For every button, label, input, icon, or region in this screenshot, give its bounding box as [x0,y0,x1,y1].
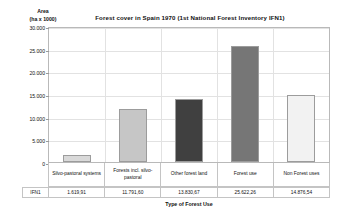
y-axis-tick-label: 5.000 [32,138,45,144]
y-axis-tick-label: 25.000 [29,48,45,54]
category-label: Forest use [218,163,274,186]
plot-area: 05.00010.00015.00020.00025.00030.000 [48,27,330,163]
category-label-row: Silvo-pastoral systemsForests incl. silv… [48,163,330,187]
y-axis-tick-label: 30.000 [29,25,45,31]
category-label: Forests incl. silvo-pastoral [105,163,161,186]
bar[interactable] [119,109,146,162]
data-value-cell: 25.622,26 [218,188,274,197]
y-axis-tick-label: 20.000 [29,70,45,76]
y-axis-tick-label: 15.000 [29,93,45,99]
bar-slot [105,28,161,162]
y-axis-tick-label: 0 [42,161,45,167]
category-label: Non Forest uses [274,163,329,186]
bar-chart-figure: Area (ha x 1000) Forest cover in Spain 1… [0,0,341,218]
chart-title: Forest cover in Spain 1970 (1st National… [60,14,320,21]
bars-group [49,28,329,162]
bar[interactable] [175,99,202,162]
data-table: IFN1 1.619,9111.791,6013.830,6725.622,26… [22,187,330,198]
bar-slot [161,28,217,162]
bar-slot [217,28,273,162]
category-label: Silvo-pastoral systems [49,163,105,186]
data-value-cell: 14.876,54 [274,188,329,197]
data-value-cell: 1.619,91 [49,188,105,197]
y-axis-tick-label: 10.000 [29,116,45,122]
category-label: Other forest land [161,163,217,186]
series-name-cell: IFN1 [23,188,49,197]
data-value-cell: 11.791,60 [105,188,161,197]
data-value-cell: 13.830,67 [161,188,217,197]
bar[interactable] [231,46,258,162]
bar[interactable] [63,155,90,162]
bar-slot [49,28,105,162]
bar[interactable] [287,95,314,162]
x-axis-title: Type of Forest Use [48,201,330,207]
bar-slot [273,28,329,162]
